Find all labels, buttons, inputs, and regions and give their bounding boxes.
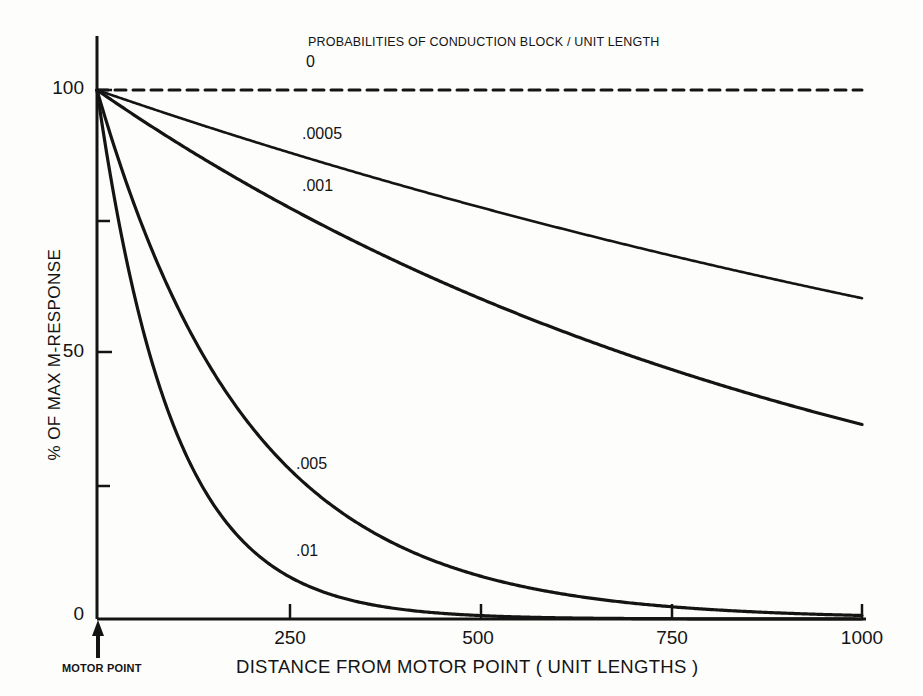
x-tick-label-1000: 1000 <box>817 628 907 647</box>
series-label-0: 0 <box>306 54 315 70</box>
axes-group <box>97 36 866 619</box>
x-axis-title: DISTANCE FROM MOTOR POINT ( UNIT LENGTHS… <box>236 658 698 677</box>
y-tick-label-100: 100 <box>22 78 84 97</box>
motor-point-arrow-icon <box>92 620 104 658</box>
series-label-001: .001 <box>302 178 333 194</box>
y-axis-title: % OF MAX M-RESPONSE <box>46 261 63 461</box>
x-tick-label-750: 750 <box>627 628 717 647</box>
series-label-0005: .0005 <box>302 126 342 142</box>
series-curve-005 <box>97 90 862 615</box>
x-tick-label-500: 500 <box>433 628 523 647</box>
series-curve-01 <box>97 90 862 619</box>
chart-title: PROBABILITIES OF CONDUCTION BLOCK / UNIT… <box>308 36 660 49</box>
series-label-01: .01 <box>296 543 318 559</box>
chart-plot-area <box>0 0 923 696</box>
motor-point-label: MOTOR POINT <box>62 663 142 674</box>
series-curve-001 <box>97 90 862 424</box>
chart-figure: PROBABILITIES OF CONDUCTION BLOCK / UNIT… <box>0 0 923 696</box>
series-label-005: .005 <box>296 456 327 472</box>
series-curves <box>97 90 862 619</box>
series-curve-0005 <box>97 90 862 298</box>
y-tick-label-0: 0 <box>22 604 84 623</box>
x-tick-label-250: 250 <box>245 628 335 647</box>
